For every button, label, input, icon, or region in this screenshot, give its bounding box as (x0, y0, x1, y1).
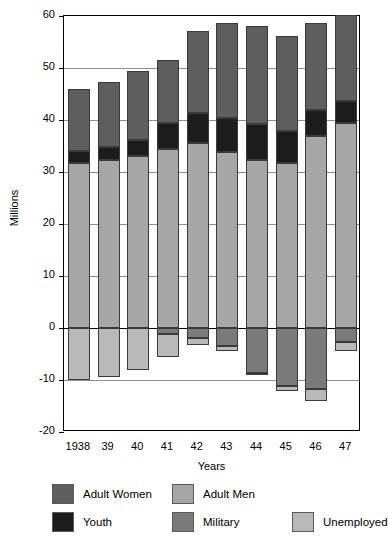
y-tick-label: 30 (22, 164, 55, 176)
bar-column[interactable] (246, 16, 268, 432)
y-tick-mark (59, 172, 64, 173)
legend-item-youth[interactable]: Youth (52, 512, 112, 532)
legend-label: Adult Women (83, 488, 152, 500)
y-tick-mark (59, 120, 64, 121)
bar-segment-adult-men[interactable] (157, 149, 179, 328)
bar-segment-unemployed[interactable] (127, 328, 149, 370)
bar-segment-youth[interactable] (246, 124, 268, 160)
bar-column[interactable] (216, 16, 238, 432)
legend-item-unemployed[interactable]: Unemployed (292, 512, 388, 532)
bar-segment-adult-men[interactable] (127, 156, 149, 328)
legend-item-military[interactable]: Military (172, 512, 239, 532)
bar-segment-youth[interactable] (98, 147, 120, 159)
bar-segment-youth[interactable] (68, 151, 90, 163)
bar-segment-military[interactable] (335, 328, 357, 342)
bar-column[interactable] (335, 16, 357, 432)
bar-column[interactable] (187, 16, 209, 432)
bar-segment-adult-women[interactable] (276, 36, 298, 132)
y-tick-label: -10 (22, 372, 55, 384)
y-tick-label: -20 (22, 424, 55, 436)
y-tick-label: 60 (22, 8, 55, 20)
bar-segment-adult-men[interactable] (276, 163, 298, 328)
legend-label: Unemployed (323, 516, 388, 528)
bar-segment-unemployed[interactable] (68, 328, 90, 380)
bar-column[interactable] (98, 16, 120, 432)
legend-swatch (52, 512, 74, 532)
bar-segment-adult-women[interactable] (187, 31, 209, 114)
x-tick-label: 47 (324, 440, 366, 452)
bar-segment-adult-women[interactable] (246, 26, 268, 124)
bar-segment-unemployed[interactable] (305, 389, 327, 400)
y-tick-mark (59, 328, 64, 329)
y-tick-label: 40 (22, 112, 55, 124)
bar-segment-adult-women[interactable] (305, 23, 327, 110)
bar-column[interactable] (276, 16, 298, 432)
bar-segment-military[interactable] (216, 328, 238, 346)
bar-segment-adult-men[interactable] (187, 143, 209, 328)
y-axis-title: Millions (8, 173, 20, 243)
bar-segment-military[interactable] (276, 328, 298, 386)
legend-item-adult-men[interactable]: Adult Men (172, 484, 255, 504)
bar-segment-adult-women[interactable] (216, 23, 238, 118)
y-tick-mark (59, 380, 64, 381)
legend-swatch (52, 484, 74, 504)
bar-segment-youth[interactable] (276, 131, 298, 162)
plot-area (63, 15, 360, 431)
bar-segment-adult-women[interactable] (98, 82, 120, 147)
bar-segment-youth[interactable] (187, 113, 209, 143)
bar-segment-youth[interactable] (216, 118, 238, 151)
y-tick-label: 0 (22, 320, 55, 332)
legend-label: Military (203, 516, 239, 528)
bar-column[interactable] (157, 16, 179, 432)
bar-segment-adult-men[interactable] (216, 152, 238, 328)
bar-column[interactable] (305, 16, 327, 432)
bar-segment-adult-men[interactable] (246, 160, 268, 328)
bar-segment-adult-women[interactable] (127, 71, 149, 140)
y-tick-mark (59, 432, 64, 433)
bar-column[interactable] (68, 16, 90, 432)
legend-item-adult-women[interactable]: Adult Women (52, 484, 152, 504)
bar-segment-unemployed[interactable] (335, 342, 357, 352)
y-tick-label: 50 (22, 60, 55, 72)
bar-segment-unemployed[interactable] (98, 328, 120, 377)
legend-label: Adult Men (203, 488, 255, 500)
y-tick-label: 20 (22, 216, 55, 228)
bar-segment-adult-men[interactable] (98, 160, 120, 328)
bar-segment-military[interactable] (246, 328, 268, 373)
bar-segment-adult-men[interactable] (335, 123, 357, 328)
bar-segment-military[interactable] (187, 328, 209, 338)
bar-segment-adult-women[interactable] (157, 60, 179, 123)
x-axis-title: Years (63, 460, 360, 472)
bar-segment-unemployed[interactable] (157, 334, 179, 356)
y-tick-mark (59, 68, 64, 69)
bar-segment-adult-women[interactable] (68, 89, 90, 151)
y-tick-mark (59, 224, 64, 225)
legend-swatch (172, 512, 194, 532)
bar-segment-military[interactable] (305, 328, 327, 389)
bar-segment-adult-women[interactable] (335, 15, 357, 101)
bar-segment-youth[interactable] (157, 123, 179, 149)
bar-segment-adult-men[interactable] (68, 163, 90, 328)
y-tick-mark (59, 16, 64, 17)
bar-segment-unemployed[interactable] (216, 346, 238, 351)
bar-segment-youth[interactable] (305, 110, 327, 136)
bar-segment-adult-men[interactable] (305, 136, 327, 328)
chart-legend: Adult WomenAdult MenYouthMilitaryUnemplo… (0, 482, 377, 542)
bar-segment-unemployed[interactable] (187, 338, 209, 344)
bar-segment-unemployed[interactable] (246, 373, 268, 376)
bar-segment-unemployed[interactable] (276, 386, 298, 391)
y-tick-mark (59, 276, 64, 277)
bar-segment-youth[interactable] (127, 140, 149, 156)
legend-swatch (292, 512, 314, 532)
legend-swatch (172, 484, 194, 504)
bar-segment-youth[interactable] (335, 101, 357, 123)
bar-column[interactable] (127, 16, 149, 432)
y-tick-label: 10 (22, 268, 55, 280)
legend-label: Youth (83, 516, 112, 528)
